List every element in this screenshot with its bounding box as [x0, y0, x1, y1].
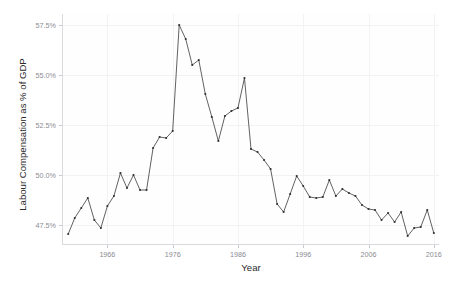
plot-panel [63, 14, 439, 244]
y-tick-52.5 [59, 125, 62, 126]
data-point [354, 195, 356, 197]
data-point [165, 137, 167, 139]
x-tick-label-1976: 1976 [165, 250, 181, 259]
data-point [243, 77, 245, 79]
data-point [322, 196, 324, 198]
data-point [387, 212, 389, 214]
data-point [270, 168, 272, 170]
data-point [198, 59, 200, 61]
data-point [413, 227, 415, 229]
y-tick-label-57.5: 57.5% [36, 21, 56, 30]
x-tick-label-1996: 1996 [295, 250, 311, 259]
y-tick-label-55: 55.0% [36, 71, 56, 80]
y-tick-50 [59, 175, 62, 176]
x-axis-line [62, 244, 439, 245]
data-point [126, 187, 128, 189]
data-point [315, 197, 317, 199]
data-point [381, 219, 383, 221]
data-point [217, 140, 219, 142]
data-point [341, 188, 343, 190]
data-point [335, 195, 337, 197]
data-point [400, 211, 402, 213]
data-point [367, 208, 369, 210]
data-point [394, 221, 396, 223]
data-point [204, 93, 206, 95]
y-tick-label-50: 50.0% [36, 171, 56, 180]
x-tick-1976 [173, 245, 174, 248]
y-axis-line [62, 14, 63, 245]
x-tick-2016 [434, 245, 435, 248]
data-point [106, 205, 108, 207]
data-point [374, 209, 376, 211]
data-point [191, 64, 193, 66]
data-point [113, 195, 115, 197]
data-point [263, 159, 265, 161]
series-line-path [68, 25, 434, 236]
y-tick-55 [59, 75, 62, 76]
data-point [87, 197, 89, 199]
data-point [224, 115, 226, 117]
data-point [407, 235, 409, 237]
data-point [276, 203, 278, 205]
data-point [237, 107, 239, 109]
data-point [100, 227, 102, 229]
data-point [296, 175, 298, 177]
x-tick-1966 [107, 245, 108, 248]
y-tick-57.5 [59, 25, 62, 26]
y-axis-title: Labour Compensation as % of GDP [17, 40, 28, 230]
y-tick-label-47.5: 47.5% [36, 221, 56, 230]
data-point [67, 233, 69, 235]
data-point [211, 116, 213, 118]
data-point [178, 24, 180, 26]
data-point [283, 211, 285, 213]
data-point [172, 130, 174, 132]
data-point [139, 189, 141, 191]
data-point [93, 219, 95, 221]
data-point [74, 217, 76, 219]
data-point [80, 207, 82, 209]
y-tick-label-52.5: 52.5% [36, 121, 56, 130]
x-tick-label-2006: 2006 [361, 250, 377, 259]
data-point [152, 147, 154, 149]
data-point [302, 185, 304, 187]
x-tick-1986 [238, 245, 239, 248]
data-point [328, 179, 330, 181]
x-tick-label-2016: 2016 [426, 250, 442, 259]
x-tick-label-1966: 1966 [99, 250, 115, 259]
data-point [433, 232, 435, 234]
series-point-markers [67, 24, 435, 237]
data-point [348, 192, 350, 194]
data-point [185, 38, 187, 40]
x-tick-1996 [303, 245, 304, 248]
data-point [256, 151, 258, 153]
line-series [63, 14, 439, 244]
data-point [230, 110, 232, 112]
data-point [132, 174, 134, 176]
data-point [426, 209, 428, 211]
x-axis-title: Year [63, 262, 439, 273]
data-point [289, 193, 291, 195]
data-point [420, 226, 422, 228]
x-tick-2006 [369, 245, 370, 248]
y-tick-47.5 [59, 225, 62, 226]
x-tick-label-1986: 1986 [230, 250, 246, 259]
data-point [159, 136, 161, 138]
data-point [361, 204, 363, 206]
data-point [309, 196, 311, 198]
data-point [119, 172, 121, 174]
data-point [250, 148, 252, 150]
chart-figure: 47.5%50.0%52.5%55.0%57.5% 19661976198619… [0, 0, 455, 286]
data-point [146, 189, 148, 191]
y-axis-tick-labels: 47.5%50.0%52.5%55.0%57.5% [0, 0, 56, 286]
